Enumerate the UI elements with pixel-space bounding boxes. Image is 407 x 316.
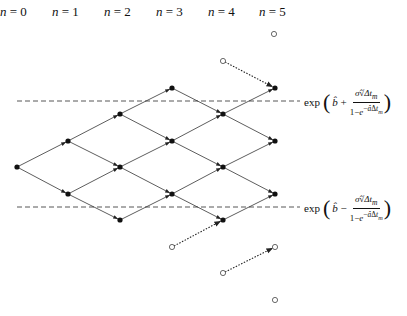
upper-bound-formula: exp ( b̂ + σ̂√Δtm1−e−âΔtm ) (304, 88, 391, 117)
lower-bound-formula: exp ( b̂ − σ̂√Δtm1−e−âΔtm ) (304, 194, 391, 223)
lattice-diagram (0, 0, 407, 316)
